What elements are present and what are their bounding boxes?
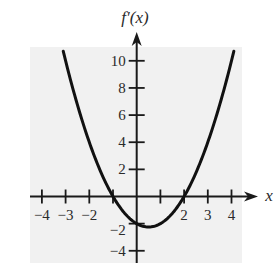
x-tick-label: −4 (34, 207, 50, 223)
y-tick-label: 4 (118, 134, 126, 150)
x-tick-label: 4 (228, 207, 236, 223)
y-tick-label: 10 (111, 53, 126, 69)
y-tick-label: −4 (110, 243, 126, 259)
x-tick-label: 3 (204, 207, 212, 223)
x-tick-label: −3 (58, 207, 74, 223)
y-tick-label: 8 (118, 80, 126, 96)
y-tick-label: −2 (110, 222, 126, 238)
x-axis-title: x (264, 186, 273, 205)
y-tick-label: 2 (118, 161, 126, 177)
y-axis-title: f′(x) (121, 8, 149, 27)
y-tick-label: 6 (118, 107, 126, 123)
derivative-chart: −4−3−2234 108642−2−4 f′(x) x (0, 0, 279, 278)
x-tick-label: 2 (180, 207, 188, 223)
x-tick-label: −2 (81, 207, 97, 223)
